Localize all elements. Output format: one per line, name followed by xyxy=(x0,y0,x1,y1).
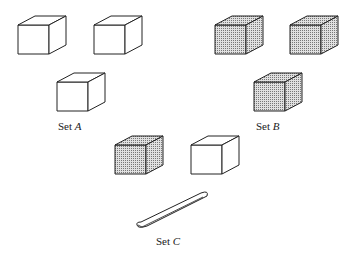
shaded-cube-icon xyxy=(115,136,163,174)
stick-icon xyxy=(137,192,208,227)
set-a-label: Set A xyxy=(58,120,82,132)
shaded-cube-icon xyxy=(254,73,302,111)
set-b-label: Set B xyxy=(256,120,280,132)
set-c-label: Set C xyxy=(156,235,180,247)
white-cube-icon xyxy=(191,136,239,174)
white-cube-icon xyxy=(57,73,105,111)
white-cube-icon xyxy=(18,16,66,54)
set-c xyxy=(115,136,239,227)
white-cube-icon xyxy=(94,16,142,54)
sets-diagram xyxy=(0,0,357,256)
set-b xyxy=(215,16,338,111)
set-a xyxy=(18,16,142,111)
shaded-cube-icon xyxy=(215,16,263,54)
shaded-cube-icon xyxy=(290,16,338,54)
